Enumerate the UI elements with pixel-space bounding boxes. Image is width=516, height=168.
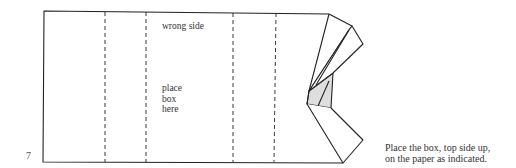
place-box-label-1: place (162, 83, 182, 93)
caption: Place the box, top side up, on the paper… (385, 143, 490, 164)
lower-flap (307, 104, 363, 163)
fold-line-4 (274, 13, 276, 162)
caption-line-1: Place the box, top side up, (385, 143, 490, 154)
paper-outline (43, 11, 343, 163)
caption-line-2: on the paper as indicated. (385, 154, 490, 165)
step-number: 7 (26, 150, 31, 161)
place-box-label-3: here (162, 104, 178, 114)
place-box-label-2: box (162, 94, 176, 104)
wrong-side-label: wrong side (162, 21, 204, 31)
